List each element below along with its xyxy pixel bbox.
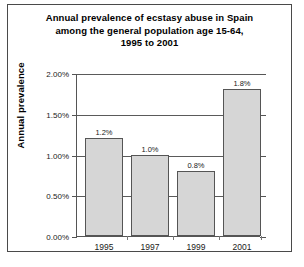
- chart-title-line-3: 1995 to 2001: [14, 37, 285, 50]
- x-tick-mark-3: [219, 236, 220, 240]
- y-tick-label-0.50: 0.50%: [46, 192, 69, 201]
- x-tick-mark-4: [261, 236, 262, 240]
- y-tick-label-2.00: 2.00%: [46, 70, 69, 79]
- chart-title-line-1: Annual prevalence of ecstasy abuse in Sp…: [14, 12, 285, 25]
- x-tick-label-1999: 1999: [187, 242, 206, 252]
- x-tick-mark-1: [127, 236, 128, 240]
- x-tick-label-2001: 2001: [233, 242, 252, 252]
- plot-area: 0.00% 0.50% 1.00% 1.50% 2.00% 1.2% 1.0% …: [76, 74, 260, 237]
- bar-label-1995: 1.2%: [95, 128, 112, 137]
- gridline-2.00: [77, 74, 260, 75]
- chart-title-line-2: among the general population age 15-64,: [14, 25, 285, 38]
- bar-1999[interactable]: 0.8%: [177, 171, 215, 236]
- chart-title: Annual prevalence of ecstasy abuse in Sp…: [14, 12, 285, 50]
- bar-label-1999: 0.8%: [187, 161, 204, 170]
- y-tick-mark-0.00: [72, 237, 77, 238]
- bar-2001[interactable]: 1.8%: [223, 89, 261, 236]
- bar-1997[interactable]: 1.0%: [131, 155, 169, 237]
- chart-figure: Annual prevalence of ecstasy abuse in Sp…: [0, 0, 304, 267]
- y-tick-mark-1.00: [72, 156, 77, 157]
- bar-label-1997: 1.0%: [141, 145, 158, 154]
- y-axis-title: Annual prevalence: [15, 41, 26, 171]
- y-tick-label-0.00: 0.00%: [46, 233, 69, 242]
- y-tick-mark-2.00: [72, 74, 77, 75]
- bar-1995[interactable]: 1.2%: [85, 138, 123, 236]
- y-tick-mark-1.50: [72, 115, 77, 116]
- x-tick-label-1995: 1995: [95, 242, 114, 252]
- y-tick-label-1.00: 1.00%: [46, 151, 69, 160]
- y-tick-mark-right-2.00: [260, 74, 266, 75]
- x-tick-mark-2: [173, 236, 174, 240]
- bar-label-2001: 1.8%: [233, 79, 250, 88]
- x-tick-label-1997: 1997: [141, 242, 160, 252]
- y-tick-label-1.50: 1.50%: [46, 110, 69, 119]
- y-tick-mark-0.50: [72, 196, 77, 197]
